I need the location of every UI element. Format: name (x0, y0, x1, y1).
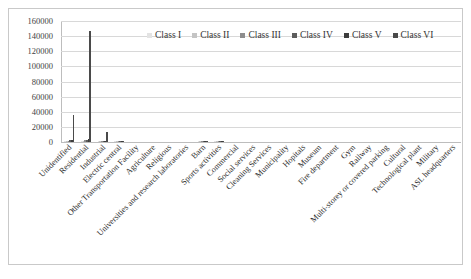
legend-item[interactable]: Class VI (393, 31, 434, 41)
bar[interactable] (106, 132, 108, 142)
bar[interactable] (73, 115, 75, 142)
legend-swatch-icon (147, 33, 152, 38)
y-axis-tick: 140000 (28, 32, 54, 41)
y-axis-tick: 60000 (32, 92, 53, 101)
legend-label: Class V (352, 31, 382, 41)
y-axis-tick: 0 (49, 138, 53, 147)
chart-legend: Class IClass IIClass IIIClass IVClass VC… (147, 31, 433, 41)
bar-group[interactable] (81, 21, 91, 142)
bar-group[interactable] (114, 21, 124, 142)
bar-group[interactable] (64, 21, 74, 142)
legend-item[interactable]: Class IV (292, 31, 333, 41)
bar-group[interactable] (131, 21, 141, 142)
bar[interactable] (123, 141, 125, 142)
y-axis-tick: 40000 (32, 108, 53, 117)
bar[interactable] (206, 141, 208, 142)
bar-group[interactable] (98, 21, 108, 142)
y-axis-tick: 20000 (32, 123, 53, 132)
legend-swatch-icon (344, 33, 349, 38)
y-axis-tick-labels: 1600001400001200001000008000060000400002… (9, 21, 57, 142)
legend-label: Class I (155, 31, 181, 41)
y-axis-tick: 160000 (28, 17, 54, 26)
legend-swatch-icon (192, 33, 197, 38)
legend-item[interactable]: Class III (240, 31, 280, 41)
bar-group[interactable] (448, 21, 458, 142)
legend-swatch-icon (393, 33, 398, 38)
legend-swatch-icon (292, 33, 297, 38)
legend-label: Class VI (401, 31, 434, 41)
legend-label: Class IV (300, 31, 333, 41)
x-axis-category-labels: UnidentifiedResidentialIndustrialElectri… (61, 145, 461, 265)
bar[interactable] (89, 31, 91, 142)
legend-item[interactable]: Class I (147, 31, 181, 41)
chart-container: 1600001400001200001000008000060000400002… (8, 8, 463, 265)
y-axis-tick: 100000 (28, 62, 54, 71)
legend-item[interactable]: Class V (344, 31, 382, 41)
legend-swatch-icon (240, 33, 245, 38)
y-axis-tick: 120000 (28, 47, 54, 56)
legend-label: Class II (200, 31, 229, 41)
y-axis-tick: 80000 (32, 77, 53, 86)
legend-label: Class III (248, 31, 280, 41)
bar[interactable] (223, 141, 225, 142)
legend-item[interactable]: Class II (192, 31, 229, 41)
